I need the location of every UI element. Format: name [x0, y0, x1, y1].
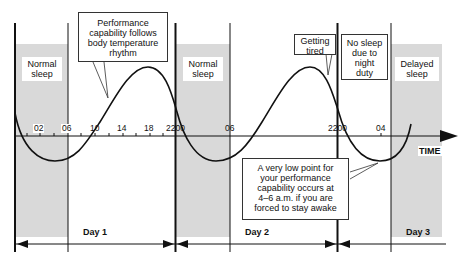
tick-label: 10 [89, 124, 100, 133]
sleep-zone-label-line: sleep [395, 69, 439, 79]
callout-line: forced to stay awake [243, 203, 348, 213]
callout-line: night [342, 58, 387, 68]
tick-label: 06 [61, 124, 72, 133]
sleep-zone-label-line: Normal [183, 59, 223, 69]
tick-label: 18 [143, 124, 154, 133]
callout-line: tired [295, 46, 335, 56]
callout-line: A very low point for [243, 163, 348, 173]
callout-line: capability follows [79, 28, 167, 38]
day-label: Day 3 [406, 227, 430, 237]
callout-line: duty [342, 68, 387, 78]
callout-line: Getting [295, 36, 335, 46]
time-axis-arrow-icon [440, 130, 458, 142]
callout-line: due to [342, 48, 387, 58]
day-label: Day 1 [83, 227, 107, 237]
day-label: Day 2 [245, 227, 269, 237]
callout-line: capability occurs at [243, 183, 348, 193]
sleep-zone-label-line: sleep [22, 69, 62, 79]
tick-label: 02 [33, 124, 44, 133]
callout-no-sleep: No sleep due to night duty [341, 34, 388, 80]
tick-label: 2200 [165, 124, 186, 133]
sleep-zone-label: Normal sleep [183, 57, 223, 81]
tick-label: 06 [224, 124, 235, 133]
callout-line: Performance [79, 18, 167, 28]
tick-label: 14 [116, 124, 127, 133]
callout-line: body temperature [79, 38, 167, 48]
sleep-zone-label-line: sleep [183, 69, 223, 79]
callout-line: 4–6 a.m. if you are [243, 193, 348, 203]
callout-line: rhythm [79, 48, 167, 58]
sleep-zone-label-line: Normal [22, 59, 62, 69]
sleep-zone-label-line: Delayed [395, 59, 439, 69]
callout-performance: Performance capability follows body temp… [78, 12, 168, 62]
time-axis-label: TIME [418, 146, 442, 156]
callout-line: your performance [243, 173, 348, 183]
callout-line: No sleep [342, 38, 387, 48]
sleep-zone-label: Normal sleep [22, 57, 62, 81]
sleep-zone-label: Delayed sleep [395, 57, 439, 81]
callout-getting-tired: Getting tired [294, 34, 336, 55]
callout-low-point: A very low point for your performance ca… [242, 158, 349, 220]
tick-label: 2200 [327, 124, 348, 133]
tick-label: 04 [375, 124, 386, 133]
